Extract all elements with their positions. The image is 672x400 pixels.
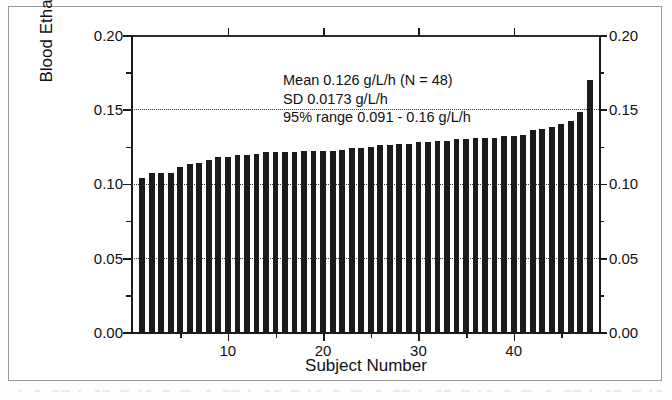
bar [482, 138, 488, 333]
y-tick-minor [599, 147, 604, 149]
bar [168, 173, 174, 332]
scan-artifact [231, 390, 240, 392]
scan-artifact [461, 390, 470, 392]
bar [425, 142, 431, 332]
bar [539, 129, 545, 333]
figure-frame: Blood Ethanol elimination, g/L/h 0.000.0… [8, 6, 662, 381]
scan-artifact [95, 390, 100, 392]
bar [349, 148, 355, 332]
scan-artifact [419, 390, 422, 392]
x-tick-minor [180, 333, 182, 338]
bar [139, 178, 145, 333]
scan-artifact [103, 390, 110, 392]
bar [244, 155, 250, 332]
scan-artifact [265, 390, 270, 392]
annotation-line-sd: SD 0.0173 g/L/h [283, 90, 471, 109]
scan-artifact [436, 390, 441, 392]
bar [187, 164, 193, 332]
y-tick-label-right: 0.10 [609, 176, 663, 191]
y-tick-major [123, 35, 131, 37]
scan-artifact [333, 390, 340, 392]
bar [368, 147, 374, 333]
y-tick-major [123, 109, 131, 111]
x-tick-minor [561, 333, 563, 338]
bar [501, 136, 507, 332]
bar [149, 173, 155, 332]
scan-artifact [120, 390, 129, 392]
bar [282, 152, 288, 332]
bar [454, 139, 460, 332]
y-tick-label-left: 0.00 [69, 325, 123, 340]
scan-artifact [78, 390, 81, 392]
bar [311, 151, 317, 332]
y-tick-minor [126, 295, 131, 297]
x-axis-title: Subject Number [131, 356, 601, 376]
x-tick-major [418, 333, 420, 341]
y-tick-minor [126, 72, 131, 74]
scan-artifact [274, 390, 281, 392]
scan-artifact [657, 390, 662, 392]
y-tick-label-left: 0.10 [69, 176, 123, 191]
x-tick-minor [466, 333, 468, 338]
y-tick-major [123, 258, 131, 260]
x-tick-minor [371, 333, 373, 338]
bar [520, 135, 526, 333]
y-tick-major [599, 184, 607, 186]
bar [273, 152, 279, 332]
y-tick-label-left: 0.05 [69, 251, 123, 266]
scan-artifact [18, 390, 21, 392]
scan-artifact [393, 390, 400, 392]
plot-area: 0.000.050.100.150.20 0.000.050.100.150.2… [131, 35, 601, 334]
scan-artifact [206, 390, 211, 392]
y-tick-label-right: 0.15 [609, 102, 663, 117]
x-tick-major [323, 333, 325, 341]
scan-artifact [529, 390, 532, 392]
bar [568, 121, 574, 332]
bar [263, 152, 269, 332]
scan-artifact [146, 390, 151, 392]
bar [377, 145, 383, 332]
bar [158, 173, 164, 332]
scan-artifact [376, 390, 381, 392]
scan-artifact [546, 390, 551, 392]
bar [235, 155, 241, 332]
y-tick-major [123, 184, 131, 186]
scan-artifact [248, 390, 251, 392]
y-axis-title: Blood Ethanol elimination, g/L/h [37, 0, 57, 123]
scan-artifact [401, 390, 410, 392]
bar [292, 152, 298, 332]
scan-artifact [52, 390, 59, 392]
bar [577, 112, 583, 332]
bar [530, 130, 536, 332]
scan-artifact [649, 390, 652, 392]
x-tick-major [514, 333, 516, 341]
axis-bottom [131, 332, 601, 334]
scan-artifact [188, 390, 191, 392]
y-tick-major [599, 109, 607, 111]
y-tick-major [599, 35, 607, 37]
scan-artifact [572, 390, 581, 392]
y-tick-minor [126, 147, 131, 149]
scan-artifact [35, 390, 40, 392]
bar [587, 80, 593, 333]
bar [444, 141, 450, 333]
bar [320, 151, 326, 332]
scan-artifact [478, 390, 481, 392]
y-tick-label-left: 0.15 [69, 102, 123, 117]
figure-panel: Blood Ethanol elimination, g/L/h 0.000.0… [0, 0, 672, 400]
bar [206, 160, 212, 332]
bar [492, 138, 498, 333]
scan-artifact [606, 390, 611, 392]
bar [511, 136, 517, 332]
y-tick-label-left: 0.20 [69, 28, 123, 43]
scan-artifact [223, 390, 230, 392]
bar [225, 157, 231, 332]
y-tick-major [123, 332, 131, 334]
y-tick-minor [599, 72, 604, 74]
bar [406, 144, 412, 333]
scan-artifact [316, 390, 321, 392]
bar [339, 150, 345, 333]
x-tick-minor [276, 333, 278, 338]
bar [396, 144, 402, 333]
y-tick-major [599, 258, 607, 260]
